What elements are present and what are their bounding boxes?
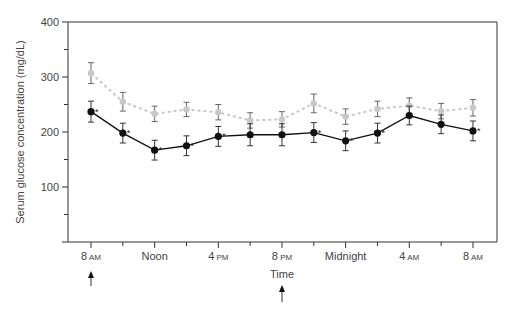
data-point xyxy=(183,142,190,149)
x-tick-label: 8 PM xyxy=(272,250,293,262)
dose-arrows xyxy=(88,271,285,302)
x-tick-label: 8 AM xyxy=(81,250,101,262)
data-point xyxy=(310,129,317,136)
data-point xyxy=(120,99,126,105)
data-point xyxy=(342,113,348,119)
x-axis-title: Time xyxy=(270,268,294,280)
significance-asterisk: * xyxy=(222,131,226,141)
data-point xyxy=(88,70,94,76)
x-axis: 8 AMNoon4 PM8 PMMidnight4 AM8 AM xyxy=(81,242,483,262)
data-point xyxy=(470,105,476,111)
y-axis-title: Serum glucose concentration (mg/dL) xyxy=(14,40,26,223)
data-point xyxy=(247,117,253,123)
significance-asterisk: * xyxy=(95,107,99,117)
data-point xyxy=(342,137,349,144)
x-tick-label: Noon xyxy=(142,250,168,262)
data-point xyxy=(374,130,381,137)
data-point xyxy=(438,108,444,114)
data-point xyxy=(183,106,189,112)
data-point xyxy=(438,121,445,128)
data-point xyxy=(374,106,380,112)
glucose-chart: 100200300400 8 AMNoon4 PM8 PMMidnight4 A… xyxy=(0,0,512,318)
x-tick-label: 4 PM xyxy=(208,250,229,262)
significance-asterisk: * xyxy=(127,128,131,138)
data-point xyxy=(279,116,285,122)
arrow-head xyxy=(88,271,94,278)
data-point xyxy=(278,131,285,138)
y-tick-label: 400 xyxy=(41,16,59,28)
data-point xyxy=(151,147,158,154)
data-point xyxy=(406,112,413,119)
data-point xyxy=(87,108,94,115)
x-tick-label: Midnight xyxy=(325,250,367,262)
data-point xyxy=(311,100,317,106)
significance-asterisk: * xyxy=(381,128,385,138)
arrow-head xyxy=(279,285,285,292)
data-series: ********* xyxy=(87,63,481,160)
significance-asterisk: * xyxy=(477,126,481,136)
x-tick-label: 8 AM xyxy=(463,250,483,262)
data-point xyxy=(247,131,254,138)
x-tick-label: 4 AM xyxy=(399,250,419,262)
significance-asterisk: * xyxy=(350,136,354,146)
y-tick-label: 200 xyxy=(41,126,59,138)
data-point xyxy=(119,130,126,137)
data-point xyxy=(215,109,221,115)
y-tick-label: 300 xyxy=(41,71,59,83)
significance-asterisk: * xyxy=(190,141,194,151)
significance-asterisk: * xyxy=(159,145,163,155)
up-arrow-icon xyxy=(88,271,94,286)
significance-asterisk: * xyxy=(318,128,322,138)
up-arrow-icon xyxy=(279,285,285,302)
y-tick-label: 100 xyxy=(41,181,59,193)
data-point xyxy=(469,127,476,134)
y-axis: 100200300400 xyxy=(41,16,68,215)
data-point xyxy=(151,111,157,117)
data-point xyxy=(215,133,222,140)
